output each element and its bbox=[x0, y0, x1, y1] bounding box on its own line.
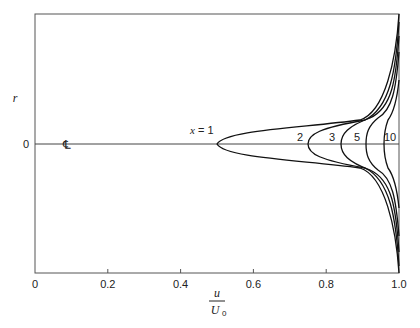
svg-text:u: u bbox=[214, 286, 220, 300]
y-tick-label-0: 0 bbox=[23, 138, 29, 150]
label-x-2: 2 bbox=[297, 131, 303, 143]
svg-text:0.6: 0.6 bbox=[246, 278, 261, 290]
svg-text:0.8: 0.8 bbox=[319, 278, 334, 290]
svg-text:0: 0 bbox=[32, 278, 38, 290]
label-x-5: 5 bbox=[354, 131, 360, 143]
svg-text:1.0: 1.0 bbox=[391, 278, 406, 290]
chart: 0 0.2 0.4 0.6 0.8 1.0 0 r ℄ u U 0 x = 1 … bbox=[0, 0, 420, 328]
x-axis-label: u U 0 bbox=[209, 286, 227, 318]
svg-text:0: 0 bbox=[222, 309, 227, 318]
label-x-10: 10 bbox=[384, 131, 396, 143]
svg-text:0.4: 0.4 bbox=[173, 278, 188, 290]
svg-text:0.2: 0.2 bbox=[100, 278, 115, 290]
y-axis-label: r bbox=[13, 91, 18, 105]
label-x-1: x = 1 bbox=[189, 124, 214, 136]
centerline-symbol: ℄ bbox=[62, 138, 71, 152]
label-x-3: 3 bbox=[329, 131, 335, 143]
x-ticks bbox=[108, 269, 326, 273]
svg-text:U: U bbox=[211, 303, 221, 317]
